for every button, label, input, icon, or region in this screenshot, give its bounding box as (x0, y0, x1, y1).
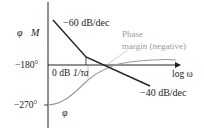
tick-minus270-label: −270° (14, 100, 38, 110)
magnitude-axis-label: M (30, 27, 40, 38)
log-omega-label: log ω (172, 69, 193, 79)
bode-diagram: φ M −60 dB/dec Phase margin (negative) −… (0, 0, 204, 132)
tick-minus180-label: −180° (15, 60, 39, 70)
phase-axis-label: φ (17, 27, 23, 38)
phase-curve (48, 60, 176, 105)
break-frequency-label: 1/τa (73, 68, 89, 78)
zero-db-label: 0 dB (52, 68, 70, 78)
phase-margin-label-line1: Phase (122, 29, 143, 39)
slope-minus40-label: −40 dB/dec (140, 87, 187, 98)
phase-curve-label: φ (62, 107, 68, 118)
phase-margin-label-line2: margin (negative) (122, 41, 186, 51)
slope-minus60-label: −60 dB/dec (63, 17, 110, 28)
phase-margin-leader (108, 50, 128, 64)
